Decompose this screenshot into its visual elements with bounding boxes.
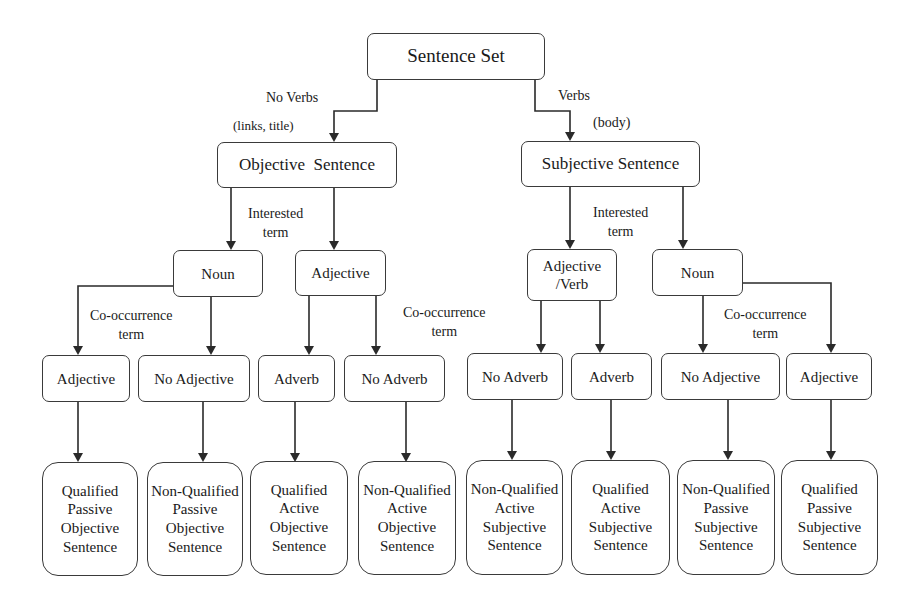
node-label: No Adverb bbox=[482, 368, 548, 386]
node-label: Adjective bbox=[57, 370, 115, 388]
node-adverb-qas: Adverb bbox=[571, 353, 652, 400]
node-label: No Adjective bbox=[154, 370, 234, 388]
node-subjective-sentence: Subjective Sentence bbox=[521, 141, 700, 187]
leaf-non-qualified-passive-subjective: Non-Qualified Passive Subjective Sentenc… bbox=[677, 460, 775, 575]
node-adverb-qao: Adverb bbox=[258, 355, 335, 402]
edge-label-co-occurrence-left: Co-occurrence term bbox=[90, 307, 172, 345]
leaf-non-qualified-active-objective: Non-Qualified Active Objective Sentence bbox=[358, 461, 456, 575]
node-no-adjective-nqps: No Adjective bbox=[661, 353, 780, 400]
leaf-qualified-passive-objective: Qualified Passive Objective Sentence bbox=[42, 462, 138, 576]
leaf-qualified-passive-subjective: Qualified Passive Subjective Sentence bbox=[781, 460, 878, 575]
node-label: Adverb bbox=[274, 370, 319, 388]
leaf-qualified-active-subjective: Qualified Active Subjective Sentence bbox=[571, 460, 670, 575]
node-adjective-qps: Adjective bbox=[786, 353, 872, 400]
node-label: Adverb bbox=[589, 368, 634, 386]
node-objective-sentence: Objective Sentence bbox=[217, 142, 397, 188]
leaf-label: Qualified Active Subjective Sentence bbox=[589, 480, 652, 555]
node-label: No Adverb bbox=[361, 370, 427, 388]
leaf-label: Non-Qualified Active Objective Sentence bbox=[363, 481, 450, 556]
node-adjective-verb-subjective: Adjective /Verb bbox=[527, 249, 617, 301]
leaf-label: Qualified Passive Objective Sentence bbox=[61, 482, 119, 557]
leaf-non-qualified-passive-objective: Non-Qualified Passive Objective Sentence bbox=[147, 462, 243, 576]
node-no-adverb-nqas: No Adverb bbox=[467, 353, 563, 400]
node-noun-objective: Noun bbox=[173, 250, 263, 297]
node-sentence-set: Sentence Set bbox=[367, 33, 545, 80]
node-label: Sentence Set bbox=[407, 45, 505, 68]
edge-label-interested-term-right: Interested term bbox=[593, 204, 648, 242]
node-label: Noun bbox=[681, 264, 714, 282]
node-no-adjective-nqpo: No Adjective bbox=[138, 355, 250, 402]
edge-label-co-occurrence-right: Co-occurrence term bbox=[724, 306, 806, 344]
leaf-label: Qualified Passive Subjective Sentence bbox=[798, 480, 861, 555]
edge-label-no-verbs: No Verbs bbox=[266, 89, 318, 108]
node-adjective-objective: Adjective bbox=[295, 250, 386, 296]
leaf-qualified-active-objective: Qualified Active Objective Sentence bbox=[250, 461, 348, 575]
node-label: Adjective /Verb bbox=[543, 257, 601, 293]
leaf-label: Qualified Active Objective Sentence bbox=[270, 481, 328, 556]
node-label: Adjective bbox=[800, 368, 858, 386]
node-adjective-qpo: Adjective bbox=[42, 355, 130, 402]
node-label: Adjective bbox=[311, 264, 369, 282]
leaf-non-qualified-active-subjective: Non-Qualified Active Subjective Sentence bbox=[466, 460, 563, 575]
leaf-label: Non-Qualified Active Subjective Sentence bbox=[471, 480, 558, 555]
edge-label-interested-term-left: Interested term bbox=[248, 205, 303, 243]
node-label: Subjective Sentence bbox=[542, 154, 679, 174]
node-noun-subjective: Noun bbox=[652, 249, 743, 296]
edge-label-verbs: Verbs bbox=[558, 87, 590, 106]
node-label: No Adjective bbox=[681, 368, 761, 386]
leaf-label: Non-Qualified Passive Objective Sentence bbox=[151, 482, 238, 557]
node-no-adverb-nqao: No Adverb bbox=[344, 355, 445, 402]
edge-sublabel-links-title: (links, title) bbox=[233, 117, 294, 135]
edge-label-co-occurrence-middle: Co-occurrence term bbox=[403, 304, 485, 342]
node-label: Objective Sentence bbox=[239, 155, 375, 175]
node-label: Noun bbox=[201, 265, 234, 283]
edge-sublabel-body: (body) bbox=[593, 114, 630, 133]
leaf-label: Non-Qualified Passive Subjective Sentenc… bbox=[682, 480, 769, 555]
